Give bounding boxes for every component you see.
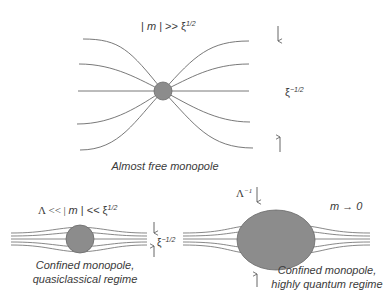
quantum-caption: Confined monopole, highly quantum regime [265,263,389,291]
exponent: 1/2 [186,20,196,27]
caption-line-1: Confined monopole, [265,263,389,277]
relation-prefix: Λ << | [38,204,69,216]
free-width-label: ξ−1/2 [285,86,304,98]
quasiclassical-monopole [66,225,94,253]
relation: → 0 [339,200,362,212]
exponent: 1/2 [108,204,118,211]
quantum-monopole [237,210,315,270]
quantum-size-label: Λ−1 [236,188,252,199]
mass-symbol: m [69,204,78,216]
mass-symbol: m [147,20,156,32]
quasiclassical-condition-label: Λ << | m | << ξ1/2 [38,204,117,216]
quasiclassical-caption: Confined monopole, quasiclassical regime [20,258,150,286]
caption-line-1: Confined monopole, [20,258,150,272]
free-condition-label: | m | >> ξ1/2 [141,20,196,32]
exponent: −1/2 [290,86,304,93]
quasiclassical-width-label: ξ−1/2 [157,236,175,248]
lambda-symbol: Λ [236,187,244,199]
diagram-canvas [0,0,389,297]
free-caption: Almost free monopole [100,159,230,173]
relation: | >> ξ [156,20,186,32]
relation: | << ξ [78,204,108,216]
caption-line-2: quasiclassical regime [20,272,150,286]
exponent: −1 [244,187,252,195]
quantum-condition-label: m → 0 [330,201,362,212]
mass-symbol: m [330,200,339,212]
free-monopole [154,82,172,100]
exponent: −1/2 [161,236,175,243]
caption-line-2: highly quantum regime [265,277,389,291]
